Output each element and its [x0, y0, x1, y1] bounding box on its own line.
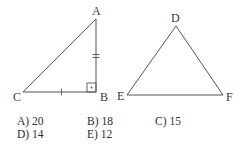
answer-choice-a[interactable]: A) 20	[17, 115, 44, 127]
answer-choice-c[interactable]: C) 15	[155, 115, 181, 127]
answer-choice-e[interactable]: E) 12	[87, 128, 112, 140]
answer-choice-d[interactable]: D) 14	[17, 128, 44, 140]
answer-choice-b[interactable]: B) 18	[87, 115, 113, 127]
answer-choices: A) 20 B) 18 C) 15 D) 14 E) 12	[0, 0, 245, 147]
